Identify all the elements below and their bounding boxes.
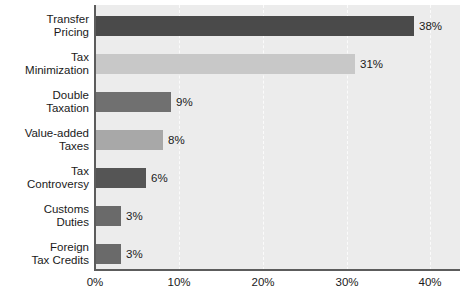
bar-value-label: 31% xyxy=(360,45,383,83)
bar-row: Customs Duties 3% xyxy=(0,197,460,235)
x-tick-label-20: 20% xyxy=(238,276,288,288)
bar-row: Foreign Tax Credits 3% xyxy=(0,235,460,273)
bar-value-label: 3% xyxy=(126,197,143,235)
bar[interactable] xyxy=(96,168,146,188)
x-tick-label-40: 40% xyxy=(405,276,455,288)
category-label: Tax Controversy xyxy=(5,159,89,197)
bar-value-label: 8% xyxy=(168,121,185,159)
bar[interactable] xyxy=(96,92,171,112)
bar[interactable] xyxy=(96,206,121,226)
bar-value-label: 9% xyxy=(176,83,193,121)
category-label: Foreign Tax Credits xyxy=(5,235,89,273)
bar[interactable] xyxy=(96,16,414,36)
category-label: Customs Duties xyxy=(5,197,89,235)
bar-value-label: 38% xyxy=(419,7,442,45)
horizontal-bar-chart: Transfer Pricing 38% Tax Minimization 31… xyxy=(0,0,460,305)
category-label: Value-added Taxes xyxy=(5,121,89,159)
bar-row: Transfer Pricing 38% xyxy=(0,7,460,45)
bar-row: Tax Minimization 31% xyxy=(0,45,460,83)
bar[interactable] xyxy=(96,54,355,74)
category-label: Double Taxation xyxy=(5,83,89,121)
bar-value-label: 6% xyxy=(151,159,168,197)
category-label: Tax Minimization xyxy=(5,45,89,83)
bar-row: Tax Controversy 6% xyxy=(0,159,460,197)
x-tick-label-10: 10% xyxy=(154,276,204,288)
bar[interactable] xyxy=(96,244,121,264)
x-tick-label-0: 0% xyxy=(70,276,120,288)
x-tick-label-30: 30% xyxy=(322,276,372,288)
bar[interactable] xyxy=(96,130,163,150)
bar-row: Value-added Taxes 8% xyxy=(0,121,460,159)
bar-row: Double Taxation 9% xyxy=(0,83,460,121)
bar-value-label: 3% xyxy=(126,235,143,273)
category-label: Transfer Pricing xyxy=(5,7,89,45)
